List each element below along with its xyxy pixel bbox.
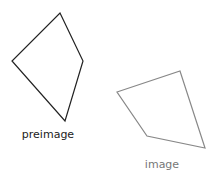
transformation-diagram: preimage image [0, 0, 218, 177]
preimage-quadrilateral [12, 13, 83, 121]
preimage-label: preimage [22, 128, 75, 141]
image-label: image [145, 158, 179, 171]
image-quadrilateral [117, 71, 205, 148]
